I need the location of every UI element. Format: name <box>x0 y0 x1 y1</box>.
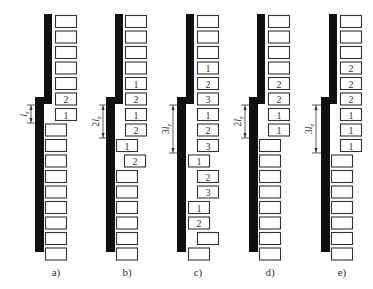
box-item: 1 <box>341 124 362 136</box>
box-number-label: 3 <box>206 94 211 105</box>
box-item <box>46 140 67 152</box>
box-outline <box>269 47 290 59</box>
box-item <box>126 62 147 74</box>
box-outline <box>56 16 77 28</box>
box-item <box>117 186 138 198</box>
box-outline <box>117 233 138 245</box>
box-outline <box>332 248 353 260</box>
box-outline <box>117 248 138 260</box>
box-outline <box>56 47 77 59</box>
box-item: 2 <box>269 93 290 105</box>
box-item <box>341 47 362 59</box>
box-outline <box>341 47 362 59</box>
box-outline <box>260 233 281 245</box>
box-item: 1 <box>198 109 219 121</box>
box-outline <box>126 62 147 74</box>
arrow-down-icon <box>171 148 174 153</box>
box-number-label: 1 <box>197 203 202 214</box>
box-item: 3 <box>198 186 219 198</box>
lower-wall-bar <box>106 97 115 252</box>
box-item <box>198 47 219 59</box>
upper-wall-bar <box>115 14 123 104</box>
box-number-label: 1 <box>349 125 354 136</box>
stepped-layout-diagram: 21lza)1212122lzb)123123123123lzc)22112lz… <box>0 0 373 289</box>
panel-c: 123123123123lzc) <box>160 14 219 279</box>
box-outline <box>117 217 138 229</box>
box-outline <box>126 47 147 59</box>
box-outline <box>260 217 281 229</box>
box-item <box>332 155 353 167</box>
box-number-label: 2 <box>133 156 138 167</box>
box-item: 2 <box>198 124 219 136</box>
box-item: 1 <box>117 140 138 152</box>
box-outline <box>46 217 67 229</box>
box-item <box>332 186 353 198</box>
box-item <box>56 78 77 90</box>
dimension-label: 3lz <box>160 123 172 134</box>
box-number-label: 2 <box>349 63 354 74</box>
arrow-up-icon <box>314 106 317 111</box>
panel-caption: b) <box>122 266 132 279</box>
upper-wall-bar <box>44 14 52 104</box>
box-number-label: 1 <box>277 110 282 121</box>
arrow-up-icon <box>29 106 32 111</box>
box-outline <box>260 248 281 260</box>
panel-e: 2221113lze) <box>303 14 362 279</box>
box-item <box>56 31 77 43</box>
panel-d: 22112lzd) <box>232 14 290 279</box>
box-outline <box>260 155 281 167</box>
box-outline <box>117 186 138 198</box>
box-outline <box>56 62 77 74</box>
box-outline <box>269 16 290 28</box>
box-item: 1 <box>189 155 210 167</box>
box-number-label: 1 <box>197 156 202 167</box>
box-outline <box>260 171 281 183</box>
box-item <box>46 233 67 245</box>
box-item <box>269 47 290 59</box>
box-item <box>260 186 281 198</box>
box-outline <box>332 171 353 183</box>
dimension-arrow: 2lz <box>90 105 108 138</box>
box-item: 2 <box>341 78 362 90</box>
box-item <box>341 31 362 43</box>
box-item <box>260 140 281 152</box>
box-item <box>189 248 210 260</box>
box-item <box>126 16 147 28</box>
box-number-label: 1 <box>125 141 130 152</box>
box-number-label: 1 <box>206 63 211 74</box>
box-item: 2 <box>341 62 362 74</box>
box-item <box>260 248 281 260</box>
box-item: 2 <box>189 217 210 229</box>
box-item: 1 <box>126 109 147 121</box>
box-item: 1 <box>341 109 362 121</box>
box-number-label: 2 <box>197 218 202 229</box>
panel-b: 1212122lzb) <box>90 14 147 279</box>
box-number-label: 2 <box>349 79 354 90</box>
box-number-label: 1 <box>64 110 69 121</box>
arrow-up-icon <box>171 106 174 111</box>
box-item <box>46 248 67 260</box>
box-item: 3 <box>198 93 219 105</box>
box-item <box>332 171 353 183</box>
box-outline <box>198 233 219 245</box>
box-item <box>117 233 138 245</box>
box-item <box>56 16 77 28</box>
box-outline <box>46 233 67 245</box>
box-outline <box>46 124 67 136</box>
box-item: 1 <box>341 140 362 152</box>
dimension-arrow: 2lz <box>232 105 250 138</box>
box-item <box>260 155 281 167</box>
box-outline <box>46 202 67 214</box>
box-number-label: 2 <box>134 125 139 136</box>
box-outline <box>117 202 138 214</box>
dimension-label: lz <box>18 111 30 117</box>
box-item <box>332 202 353 214</box>
box-item <box>332 233 353 245</box>
box-outline <box>341 16 362 28</box>
box-item <box>46 217 67 229</box>
box-item: 2 <box>56 93 77 105</box>
lower-wall-bar <box>321 97 330 252</box>
box-item: 2 <box>341 93 362 105</box>
box-item <box>46 202 67 214</box>
box-item <box>198 233 219 245</box>
